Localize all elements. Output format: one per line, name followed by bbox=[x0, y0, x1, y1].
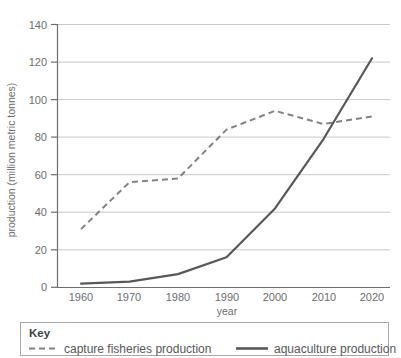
series-line-capture-fisheries bbox=[81, 111, 372, 229]
y-tick-label-100: 100 bbox=[29, 94, 47, 106]
y-tick-labels: 140 120 100 80 60 40 20 0 bbox=[29, 19, 47, 294]
y-tick-label-60: 60 bbox=[35, 169, 47, 181]
y-tick-label-20: 20 bbox=[35, 244, 47, 256]
chart-svg: production (million metric tonnes) bbox=[0, 0, 401, 358]
legend-title: Key bbox=[29, 327, 51, 339]
gridlines bbox=[57, 25, 390, 250]
legend: Key capture fisheries production aquacul… bbox=[21, 323, 397, 356]
x-tick-label-2020: 2020 bbox=[360, 291, 384, 303]
y-tick-label-120: 120 bbox=[29, 56, 47, 68]
y-tick-label-80: 80 bbox=[35, 131, 47, 143]
y-tick-label-40: 40 bbox=[35, 206, 47, 218]
x-tick-label-2010: 2010 bbox=[312, 291, 336, 303]
x-tick-label-1960: 1960 bbox=[69, 291, 93, 303]
legend-label-capture-fisheries: capture fisheries production bbox=[64, 342, 211, 356]
x-axis-title-text: year bbox=[217, 305, 238, 317]
x-tick-labels: 1960 1970 1980 1990 2000 2010 2020 bbox=[69, 291, 384, 303]
legend-label-aquaculture: aquaculture production bbox=[274, 342, 396, 356]
x-tick-label-1970: 1970 bbox=[117, 291, 141, 303]
line-chart-figure: production (million metric tonnes) bbox=[0, 0, 401, 358]
y-axis-title: production (million metric tonnes) bbox=[5, 83, 17, 238]
x-tick-label-1980: 1980 bbox=[166, 291, 190, 303]
y-axis-title-text: production (million metric tonnes) bbox=[5, 83, 17, 238]
x-tick-label-1990: 1990 bbox=[215, 291, 239, 303]
y-tick-marks bbox=[51, 25, 57, 288]
y-tick-label-0: 0 bbox=[41, 281, 47, 293]
x-tick-label-2000: 2000 bbox=[263, 291, 287, 303]
y-tick-label-140: 140 bbox=[29, 19, 47, 31]
